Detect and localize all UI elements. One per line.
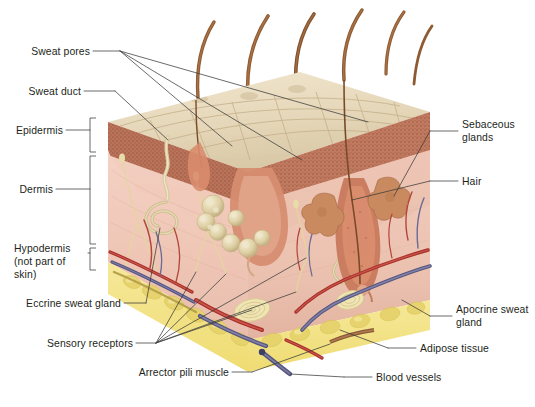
label-sweat-pores: Sweat pores — [31, 46, 90, 57]
label-sebaceous-glands-line2: glands — [462, 132, 493, 143]
label-apocrine-sweat-gland-line2: gland — [456, 317, 482, 328]
layer-brackets — [90, 118, 96, 270]
label-hypodermis-line1: Hypodermis — [14, 243, 70, 254]
label-eccrine-sweat-gland: Eccrine sweat gland — [26, 298, 121, 309]
skin-cross-section-figure: Sweat pores Sweat duct Epidermis Dermis … — [0, 0, 535, 407]
label-dermis: Dermis — [19, 184, 53, 195]
label-hypodermis-line3: skin) — [14, 269, 36, 280]
dermis-bracket — [90, 156, 96, 244]
label-epidermis: Epidermis — [16, 125, 63, 136]
label-blood-vessels: Blood vessels — [376, 372, 441, 383]
epidermis-bracket — [90, 118, 96, 152]
label-hair: Hair — [462, 176, 482, 187]
hypodermis-bracket — [90, 248, 96, 270]
label-apocrine-sweat-gland-line1: Apocrine sweat — [456, 304, 528, 315]
label-sweat-duct: Sweat duct — [29, 86, 81, 97]
label-arrector-pili-muscle: Arrector pili muscle — [139, 367, 229, 378]
figure-canvas: Sweat pores Sweat duct Epidermis Dermis … — [0, 0, 535, 407]
label-hypodermis-line2: (not part of — [14, 256, 65, 267]
label-sebaceous-glands-line1: Sebaceous — [462, 119, 515, 130]
label-adipose-tissue: Adipose tissue — [420, 343, 489, 354]
label-sensory-receptors: Sensory receptors — [47, 338, 133, 349]
